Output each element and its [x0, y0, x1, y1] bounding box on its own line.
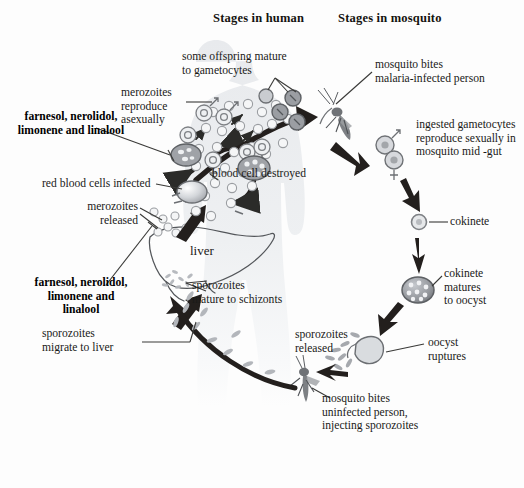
label-some-offspring-mature-to-gametocytes: some offspring mature to gametocytes: [182, 50, 332, 77]
label-blood-cell-destroyed: blood cell destroyed: [212, 167, 306, 181]
red-blood-cell-invaded: [177, 181, 207, 203]
label-merozoites-released: merozoites released: [62, 200, 138, 227]
label-merozoites-reproduce-asexually: merozoites reproduce asexually: [121, 86, 191, 127]
label-mosquito-bites-infected-person: mosquito bites malaria-infected person: [375, 58, 515, 85]
heading-stages-in-human: Stages in human: [213, 11, 304, 26]
label-ingested-gametocytes: ingested gametocytes reproduce sexually …: [416, 118, 524, 159]
arrow-to-oocyst: [412, 238, 425, 274]
label-sporozoites-mature-to-schizonts: sporozoites mature to schizonts: [192, 279, 312, 306]
label-compounds-blood-stage: farnesol, nerolidol, limonene and linalo…: [12, 110, 130, 137]
label-compounds-liver-stage: farnesol, nerolidol, limonene and linalo…: [22, 276, 140, 317]
ookinete-cell: [412, 215, 427, 230]
arrow-sporozoites-to-mosquito: [316, 364, 348, 381]
label-sporozoites-migrate-to-liver: sporozoites migrate to liver: [42, 327, 142, 354]
mosquito-biting-infected-person: [318, 88, 352, 140]
oocyst-cell: [402, 277, 434, 303]
mosquito-biting-uninfected-person: [290, 355, 320, 402]
malaria-lifecycle-figure: Stages in human Stages in mosquito some …: [0, 0, 524, 488]
arrow-ingest-gametocytes: [330, 142, 370, 176]
liver-schizont-cluster: [162, 269, 194, 289]
arrow-to-ookinete: [400, 178, 420, 212]
label-oocyst-ruptures: oocyst ruptures: [428, 336, 488, 363]
infected-red-blood-cell: [171, 144, 201, 166]
label-mosquito-bites-uninfected-person: mosquito bites uninfected person, inject…: [322, 392, 462, 433]
heading-stages-in-mosquito: Stages in mosquito: [338, 11, 442, 26]
label-liver: liver: [190, 243, 214, 258]
gametocyte-pair-midgut: [376, 130, 403, 180]
arrow-oocyst-ruptures: [378, 302, 404, 336]
label-sporozoites-released: sporozoites released: [295, 328, 375, 355]
label-ookinete-matures-to-oocyst: cokinete matures to oocyst: [444, 267, 524, 308]
label-red-blood-cells-infected: red blood cells infected: [42, 177, 151, 191]
label-ookinete: cokinete: [450, 215, 489, 229]
